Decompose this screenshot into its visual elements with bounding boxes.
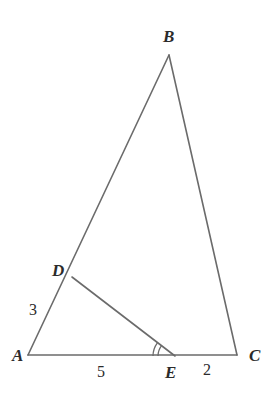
geometry-canvas — [0, 0, 273, 399]
vertex-label-C: C — [249, 347, 260, 364]
segment-BC — [169, 55, 237, 355]
angle-arc-outer — [153, 343, 157, 356]
triangle-outline — [28, 55, 237, 355]
segment-DE — [72, 277, 175, 356]
segment-AB — [28, 55, 169, 355]
vertex-label-B: B — [163, 28, 174, 45]
cevian-segment-DE — [72, 277, 175, 356]
vertex-label-E: E — [165, 364, 176, 381]
vertex-label-D: D — [52, 262, 64, 279]
length-label-EC: 2 — [203, 362, 211, 378]
length-label-AD: 3 — [29, 302, 37, 318]
geometry-figure: A B C D E 3 5 2 — [0, 0, 273, 399]
vertex-label-A: A — [12, 347, 23, 364]
length-label-AE: 5 — [97, 364, 105, 380]
